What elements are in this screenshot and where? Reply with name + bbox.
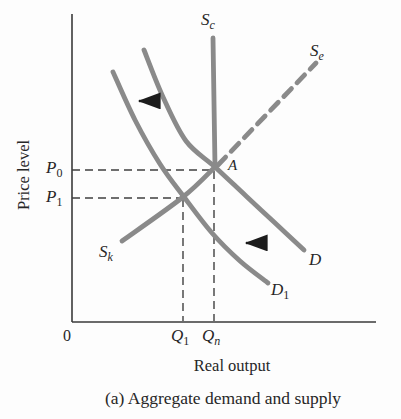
sc-supply-curve	[213, 38, 215, 167]
aggregate-demand-supply-figure: Sc Se Sk D D1 P0 P1 A 0 Q1 Qn Price leve…	[0, 0, 401, 419]
sk-curve-label: Sk	[99, 243, 113, 263]
d-curve-label: D	[309, 251, 321, 271]
origin-label: 0	[63, 328, 71, 344]
q1-output-label: Q1	[171, 327, 189, 347]
se-curve-label: Se	[310, 42, 324, 62]
se-supply-curve	[218, 63, 316, 165]
d1-curve-label: D1	[271, 281, 289, 301]
figure-caption: (a) Aggregate demand and supply	[46, 388, 400, 409]
d1-demand-curve	[113, 72, 268, 283]
y-axis-title: Price level	[14, 115, 34, 235]
x-axis-title: Real output	[167, 356, 297, 376]
qn-output-label: Qn	[202, 327, 220, 347]
sc-curve-label: Sc	[201, 11, 215, 31]
p0-price-label: P0	[46, 159, 62, 179]
p1-price-label: P1	[46, 188, 62, 208]
point-a-label: A	[228, 158, 237, 173]
d-demand-curve	[144, 50, 304, 250]
